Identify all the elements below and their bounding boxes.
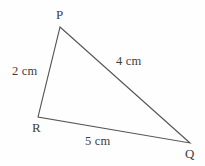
triangle-figure: P R Q 2 cm 4 cm 5 cm bbox=[0, 0, 205, 166]
vertex-label-p: P bbox=[56, 8, 63, 21]
side-length-label-pr: 2 cm bbox=[12, 65, 37, 78]
triangle-shape bbox=[38, 27, 190, 143]
side-length-label-rq: 5 cm bbox=[85, 135, 110, 148]
vertex-label-q: Q bbox=[185, 147, 195, 160]
side-length-label-pq: 4 cm bbox=[116, 55, 141, 68]
vertex-label-r: R bbox=[32, 121, 41, 134]
